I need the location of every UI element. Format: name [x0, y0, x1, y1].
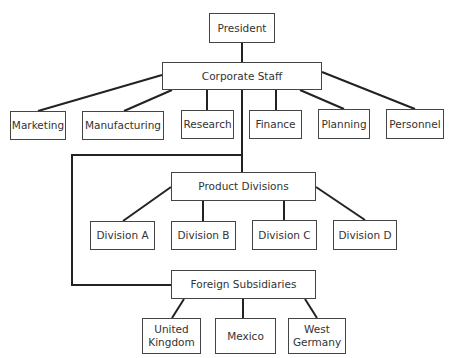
united-kingdom-label: United Kingdom — [148, 323, 194, 349]
personnel-box: Personnel — [386, 109, 444, 139]
mexico-box: Mexico — [215, 318, 276, 354]
product-divisions-box: Product Divisions — [171, 172, 316, 201]
research-box: Research — [181, 110, 234, 139]
product-divisions-label: Product Divisions — [198, 180, 288, 193]
division-c-label: Division C — [258, 229, 310, 242]
manufacturing-label: Manufacturing — [85, 119, 161, 132]
united-kingdom-box: United Kingdom — [142, 318, 201, 354]
division-d-label: Division D — [338, 229, 391, 242]
president-label: President — [218, 22, 267, 35]
manufacturing-box: Manufacturing — [82, 111, 164, 140]
division-a-box: Division A — [90, 221, 155, 250]
planning-label: Planning — [321, 118, 366, 131]
personnel-label: Personnel — [389, 118, 440, 131]
west-germany-box: West Germany — [288, 318, 346, 354]
marketing-box: Marketing — [10, 111, 66, 140]
finance-label: Finance — [255, 118, 295, 131]
finance-box: Finance — [249, 110, 302, 139]
marketing-label: Marketing — [12, 119, 64, 132]
west-germany-label: West Germany — [293, 323, 341, 349]
planning-box: Planning — [318, 109, 370, 139]
foreign-subsidiaries-box: Foreign Subsidiaries — [171, 270, 316, 299]
corporate-staff-box: Corporate Staff — [162, 62, 322, 90]
division-a-label: Division A — [96, 229, 148, 242]
president-box: President — [209, 13, 275, 43]
division-c-box: Division C — [252, 220, 317, 250]
mexico-label: Mexico — [227, 330, 264, 343]
research-label: Research — [183, 118, 231, 131]
division-d-box: Division D — [333, 220, 397, 250]
division-b-box: Division B — [171, 221, 236, 250]
foreign-subsidiaries-label: Foreign Subsidiaries — [191, 278, 297, 291]
division-b-label: Division B — [177, 229, 229, 242]
corporate-staff-label: Corporate Staff — [202, 70, 282, 83]
